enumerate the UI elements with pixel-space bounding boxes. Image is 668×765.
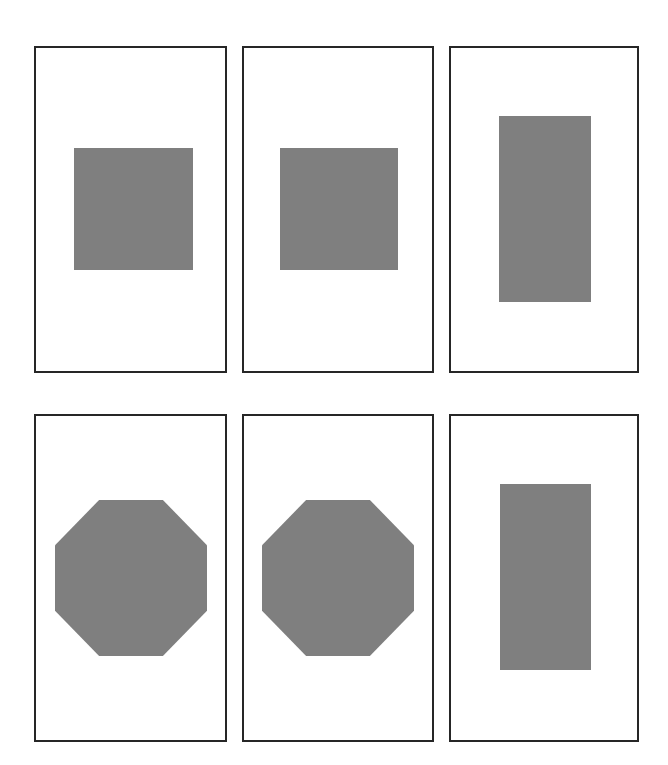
square-shape	[280, 148, 398, 270]
octagon-shape	[262, 500, 414, 656]
tall-rectangle-shape	[500, 484, 591, 670]
tall-rectangle-shape	[499, 116, 591, 302]
square-shape	[74, 148, 193, 270]
octagon-shape	[55, 500, 207, 656]
